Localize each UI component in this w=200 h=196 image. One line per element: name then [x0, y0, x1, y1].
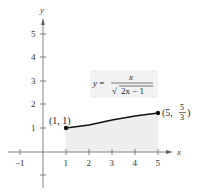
- svg-text:√: √: [112, 86, 117, 96]
- y-tick-label: 2: [31, 99, 36, 109]
- y-tick-label: 1: [31, 123, 36, 133]
- shaded-region: [66, 113, 158, 152]
- x-tick-label: 2: [87, 158, 92, 168]
- svg-text:x: x: [128, 72, 133, 82]
- endpoint-right: [156, 111, 160, 115]
- svg-text:3: 3: [180, 113, 184, 122]
- x-tick-label: 1: [64, 158, 69, 168]
- y-tick-label: 3: [31, 76, 36, 86]
- chart-canvas: x y −1 1 2 3 4 5 1 2 3 4 5 (1, 1) (5, 5 …: [0, 0, 200, 196]
- y-tick-label: 4: [31, 52, 36, 62]
- svg-text:(5,: (5,: [162, 107, 173, 119]
- y-tick-label: 5: [31, 29, 36, 39]
- x-tick-label: 3: [110, 158, 115, 168]
- svg-text:y =: y =: [92, 78, 104, 88]
- y-axis-label: y: [39, 5, 44, 15]
- y-axis-arrow-icon: [41, 18, 45, 25]
- x-axis-arrow-icon: [166, 150, 173, 154]
- point-label-right: (5, 5 3 ): [162, 103, 190, 122]
- svg-text:): ): [187, 107, 190, 119]
- x-tick-label: −1: [15, 158, 25, 168]
- x-axis-label: x: [176, 147, 181, 157]
- svg-text:5: 5: [180, 103, 184, 112]
- x-tick-label: 5: [156, 158, 161, 168]
- svg-text:2x − 1: 2x − 1: [121, 86, 144, 96]
- point-label-left: (1, 1): [49, 115, 71, 127]
- endpoint-left: [64, 126, 68, 130]
- x-tick-label: 4: [133, 158, 138, 168]
